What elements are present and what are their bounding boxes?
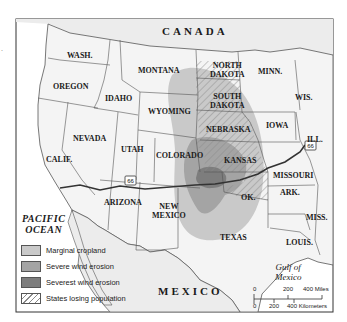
legend-item-marginal-cropland: Marginal cropland: [21, 242, 126, 258]
label-idaho: IDAHO: [105, 94, 132, 103]
label-pacific-line1: PACIFIC: [22, 213, 65, 224]
label-iowa: IOWA: [266, 121, 288, 130]
scale-miles-400: 400 Miles: [303, 286, 329, 292]
label-pacific-line2: OCEAN: [25, 224, 62, 235]
swatch-severest-wind-erosion: [21, 277, 41, 288]
label-montana: MONTANA: [138, 66, 180, 75]
label-wash: WASH.: [67, 51, 93, 60]
label-texas: TEXAS: [220, 233, 247, 242]
label-nebraska: NEBRASKA: [206, 125, 250, 134]
label-new-mexico: NEW MEXICO: [152, 202, 186, 220]
label-north-dakota: NORTH DAKOTA: [210, 61, 245, 79]
scale-km-0: 0: [253, 303, 256, 309]
label-mexico: MEXICO: [158, 287, 222, 296]
scale-km-200: 200: [269, 303, 279, 309]
route-66-shield-west: 66: [125, 176, 136, 185]
label-ok: OK.: [241, 193, 255, 202]
label-new-mexico-line1: NEW: [159, 202, 178, 211]
label-wyoming: WYOMING: [148, 107, 191, 116]
label-pacific-ocean: PACIFIC OCEAN: [22, 213, 65, 235]
label-gulf-of-mexico: Gulf of Mexico: [275, 262, 301, 282]
label-new-mexico-line2: MEXICO: [152, 211, 186, 220]
label-ill: ILL.: [307, 135, 323, 144]
svg-text:66: 66: [127, 178, 134, 184]
scale-miles-0: 0: [253, 286, 256, 292]
label-utah: UTAH: [121, 145, 144, 154]
legend-label: States losing population: [46, 294, 126, 303]
legend-item-severe-wind-erosion: Severe wind erosion: [21, 258, 126, 274]
legend-label: Severest wind erosion: [46, 278, 120, 287]
label-north-dakota-line2: DAKOTA: [210, 70, 245, 79]
label-oregon: OREGON: [53, 82, 89, 91]
legend-label: Severe wind erosion: [46, 262, 114, 271]
label-louis: LOUIS.: [286, 238, 313, 247]
label-calif: CALIF.: [46, 155, 72, 164]
legend-item-severest-wind-erosion: Severest wind erosion: [21, 274, 126, 290]
label-minn: MINN.: [258, 67, 282, 76]
label-south-dakota-line2: DAKOTA: [210, 101, 245, 110]
label-colorado: COLORADO: [156, 151, 203, 160]
label-gulf-line1: Gulf of: [276, 262, 301, 272]
swatch-marginal-cropland: [21, 245, 41, 256]
legend-item-states-losing-population: States losing population: [21, 290, 126, 306]
legend-label: Marginal cropland: [46, 246, 106, 255]
label-south-dakota-line1: SOUTH: [213, 92, 241, 101]
label-kansas: KANSAS: [224, 156, 256, 165]
label-gulf-line2: Mexico: [275, 272, 301, 282]
label-south-dakota: SOUTH DAKOTA: [210, 92, 245, 110]
label-canada: CANADA: [162, 27, 228, 36]
label-north-dakota-line1: NORTH: [213, 61, 242, 70]
swatch-severe-wind-erosion: [21, 261, 41, 272]
scale-km-400: 400 Kilometers: [287, 303, 327, 309]
stray-mark: ·: [1, 48, 3, 54]
swatch-states-losing-population: [21, 293, 41, 304]
label-ark: ARK.: [280, 188, 300, 197]
label-missouri: MISSOURI: [273, 171, 313, 180]
label-wis: WIS.: [295, 93, 313, 102]
label-miss: MISS.: [306, 213, 328, 222]
label-nevada: NEVADA: [73, 134, 106, 143]
map-legend: Marginal cropland Severe wind erosion Se…: [21, 242, 126, 306]
scale-miles-200: 200: [283, 286, 293, 292]
label-arizona: ARIZONA: [104, 198, 142, 207]
